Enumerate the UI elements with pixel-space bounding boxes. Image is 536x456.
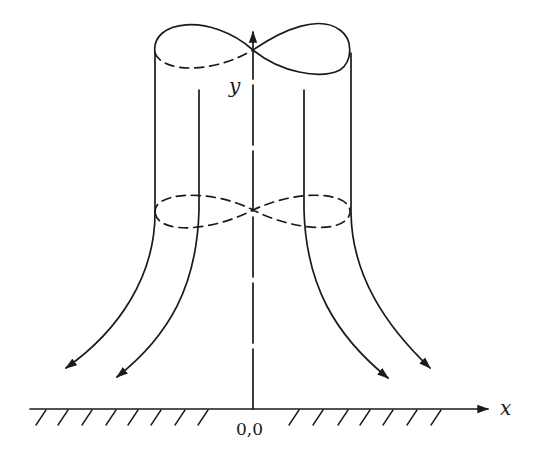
diagram-canvas: y x 0,0 <box>0 0 536 456</box>
inner-right-flow <box>304 90 388 378</box>
x-axis-label: x <box>500 396 511 420</box>
origin-label: 0,0 <box>236 419 263 439</box>
y-axis-label: y <box>228 74 241 98</box>
top-figure-eight-back <box>155 50 253 68</box>
outer-left-flow <box>66 53 155 368</box>
outer-right-flow <box>351 53 430 368</box>
inner-left-flow <box>117 90 199 377</box>
